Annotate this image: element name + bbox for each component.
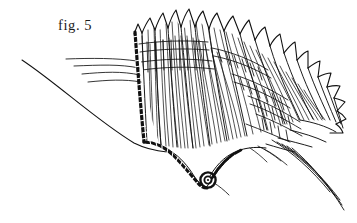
left-filaments — [66, 58, 141, 82]
vertical-striations — [142, 20, 325, 148]
illustration-canvas — [0, 0, 357, 223]
cross-hatch-bands — [139, 40, 302, 142]
lower-right-filaments — [272, 140, 344, 210]
figure-plate: fig. 5 — [0, 0, 357, 223]
figure-caption: fig. 5 — [58, 17, 92, 34]
spiral-coil — [200, 172, 229, 195]
